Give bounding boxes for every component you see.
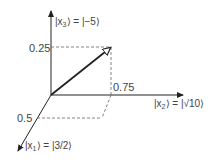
x3-tick-label: 0.25 <box>29 42 50 54</box>
x3-axis-label: |x3⟩ = |−5⟩ <box>55 16 100 28</box>
x2-diagonal-projection-line <box>102 95 111 118</box>
x2-tick-label: 0.75 <box>113 81 134 93</box>
state-vector-arrow <box>51 48 110 95</box>
x2-axis-label: |x2⟩ = |√10⟩ <box>154 98 204 110</box>
vector-diagram: 0.25 0.75 0.5 |x3⟩ = |−5⟩ |x2⟩ = |√10⟩ |… <box>0 0 223 162</box>
x1-axis-label: |x1⟩ = |3/2⟩ <box>25 140 72 152</box>
x1-tick-label: 0.5 <box>17 112 32 124</box>
